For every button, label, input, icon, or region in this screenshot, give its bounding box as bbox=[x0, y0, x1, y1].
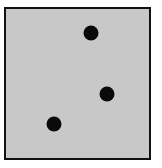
dot-3 bbox=[47, 117, 62, 132]
dot-panel bbox=[4, 7, 151, 160]
dot-1 bbox=[84, 26, 99, 41]
dot-2 bbox=[100, 87, 115, 102]
